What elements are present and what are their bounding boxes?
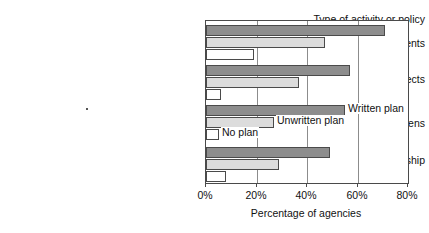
bar-unwritten-plan-group-1 <box>206 37 325 48</box>
bar-no-plan-group-1 <box>206 49 254 60</box>
x-tick-mark-60pct <box>357 183 358 187</box>
bar-written-plan-group-2 <box>206 65 350 76</box>
bar-unwritten-plan-group-2 <box>206 77 299 88</box>
x-tick-mark-80pct <box>407 183 408 187</box>
x-tick-label-80pct: 80% <box>396 189 417 201</box>
x-tick-label-0pct: 0% <box>197 189 212 201</box>
bar-unwritten-plan-group-4 <box>206 159 279 170</box>
x-tick-mark-40pct <box>306 183 307 187</box>
x-tick-mark-0pct <box>205 183 206 187</box>
bar-written-plan-group-1 <box>206 25 385 36</box>
x-tick-mark-20pct <box>256 183 257 187</box>
bar-written-plan-group-4 <box>206 147 330 158</box>
bar-no-plan-group-3 <box>206 129 219 140</box>
x-tick-label-40pct: 40% <box>295 189 316 201</box>
bar-no-plan-group-2 <box>206 89 221 100</box>
x-axis-title: Percentage of agencies <box>205 207 407 219</box>
bar-chart: Type of activity or policy Geographic pa… <box>0 0 429 233</box>
stray-dot-artifact <box>86 108 88 110</box>
legend-label-unwritten-plan: Unwritten plan <box>276 115 345 126</box>
x-tick-label-60pct: 60% <box>346 189 367 201</box>
legend-label-written-plan: Written plan <box>347 103 405 114</box>
legend-label-no-plan: No plan <box>221 127 259 138</box>
bar-no-plan-group-4 <box>206 171 226 182</box>
x-tick-label-20pct: 20% <box>245 189 266 201</box>
